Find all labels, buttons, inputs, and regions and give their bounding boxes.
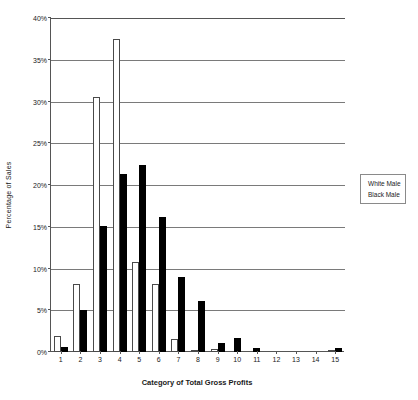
bar-group — [149, 18, 169, 352]
x-axis-title: Category of Total Gross Profits — [50, 378, 344, 387]
y-tick-label: 15% — [33, 223, 47, 230]
legend-label-white-male: White Male — [368, 180, 401, 187]
chart-legend: White Male Black Male — [360, 174, 406, 204]
x-tick-label: 6 — [157, 356, 161, 363]
x-tick-mark — [257, 351, 258, 354]
y-tick-label: 10% — [33, 265, 47, 272]
y-tick-label: 35% — [33, 56, 47, 63]
x-tick-label: 10 — [233, 356, 241, 363]
bar-series-container — [51, 18, 345, 352]
x-tick-mark — [61, 351, 62, 354]
bar-white-male — [113, 39, 120, 352]
bar-group — [208, 18, 228, 352]
x-tick-mark — [100, 351, 101, 354]
y-tick-label: 20% — [33, 182, 47, 189]
x-tick-label: 2 — [78, 356, 82, 363]
bar-group — [51, 18, 71, 352]
plot-area: 0%5%10%15%20%25%30%35%40% 12345678910111… — [50, 18, 344, 352]
y-tick-label: 25% — [33, 140, 47, 147]
x-tick-mark — [316, 351, 317, 354]
x-tick-mark — [80, 351, 81, 354]
bar-group — [267, 18, 287, 352]
y-axis-title-text: Percentage of Sales — [5, 120, 12, 270]
x-tick-label: 13 — [292, 356, 300, 363]
bar-black-male — [61, 347, 68, 352]
x-tick-label: 11 — [253, 356, 260, 363]
y-axis-title: Percentage of Sales — [5, 0, 12, 120]
x-tick-mark — [335, 351, 336, 354]
bar-black-male — [335, 348, 342, 352]
bar-white-male — [152, 284, 159, 352]
x-tick-mark — [178, 351, 179, 354]
bar-group — [71, 18, 91, 352]
x-tick-mark — [276, 351, 277, 354]
y-tick-label: 30% — [33, 98, 47, 105]
bar-black-male — [120, 174, 127, 352]
bar-white-male — [93, 97, 100, 352]
bar-white-male — [73, 284, 80, 352]
legend-item: Black Male — [365, 189, 401, 200]
x-tick-mark — [198, 351, 199, 354]
x-tick-label: 5 — [137, 356, 141, 363]
legend-item: White Male — [365, 178, 401, 189]
x-tick-label: 1 — [59, 356, 63, 363]
bar-white-male — [132, 262, 139, 352]
y-tick-label: 40% — [33, 15, 47, 22]
bar-black-male — [198, 301, 205, 352]
x-tick-label: 3 — [98, 356, 102, 363]
bar-group — [110, 18, 130, 352]
x-tick-label: 15 — [331, 356, 339, 363]
bar-white-male — [54, 336, 61, 352]
bar-white-male — [191, 350, 198, 353]
legend-label-black-male: Black Male — [368, 191, 400, 198]
bar-group — [188, 18, 208, 352]
bar-group — [306, 18, 326, 352]
y-tick-label: 5% — [37, 307, 47, 314]
bar-group — [169, 18, 189, 352]
x-tick-label: 14 — [312, 356, 320, 363]
bar-black-male — [234, 338, 241, 352]
bar-white-male — [211, 349, 218, 352]
bar-white-male — [328, 350, 335, 353]
x-tick-mark — [237, 351, 238, 354]
x-tick-label: 7 — [176, 356, 180, 363]
chart-figure: Percentage of Sales 0%5%10%15%20%25%30%3… — [0, 0, 418, 400]
bar-group — [129, 18, 149, 352]
bar-black-male — [178, 277, 185, 352]
y-tick-label: 0% — [37, 349, 47, 356]
bar-black-male — [139, 165, 146, 352]
bar-group — [247, 18, 267, 352]
bar-group — [325, 18, 345, 352]
bar-black-male — [80, 310, 87, 352]
bar-group — [227, 18, 247, 352]
x-tick-label: 4 — [118, 356, 122, 363]
x-tick-mark — [139, 351, 140, 354]
bar-group — [286, 18, 306, 352]
x-tick-label: 12 — [272, 356, 280, 363]
x-tick-mark — [159, 351, 160, 354]
bar-group — [90, 18, 110, 352]
x-tick-mark — [296, 351, 297, 354]
bar-black-male — [100, 226, 107, 352]
x-tick-label: 9 — [216, 356, 220, 363]
x-tick-mark — [218, 351, 219, 354]
bar-black-male — [218, 343, 225, 352]
x-tick-mark — [120, 351, 121, 354]
x-tick-label: 8 — [196, 356, 200, 363]
bar-black-male — [159, 217, 166, 352]
bar-white-male — [171, 339, 178, 352]
